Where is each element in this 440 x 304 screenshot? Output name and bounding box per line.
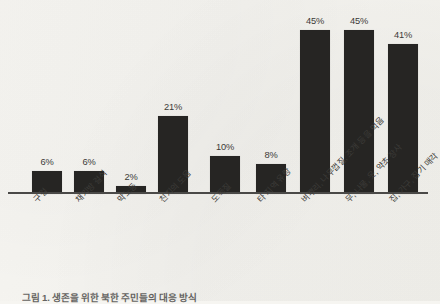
bar-value-label: 6%: [82, 157, 95, 167]
bar-value-label: 45%: [306, 16, 324, 26]
bar-value-label: 8%: [264, 150, 277, 160]
bar-value-label: 6%: [40, 157, 53, 167]
figure-caption: 그림 1. 생존을 위한 북한 주민들의 대응 방식: [22, 290, 422, 304]
plot-area: 6% 6% 2% 21% 10% 8% 45% 45%: [14, 4, 426, 194]
bar-value-label: 41%: [394, 30, 412, 40]
bar-value-label: 21%: [164, 102, 182, 112]
x-axis-tick-labels: 구걸 채기방 걸식 막노동 친지의 도움 도둑질 타 지역 유랑 벼뿌리, 나무…: [0, 192, 440, 300]
bar-value-label: 45%: [350, 16, 368, 26]
bar-value-label: 10%: [216, 142, 234, 152]
